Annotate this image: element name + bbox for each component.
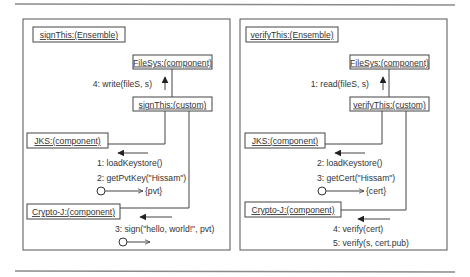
custom-label: signThis:(custom) (139, 100, 207, 110)
message-filesys: 1: read(fileS, s) (311, 79, 369, 89)
message-jks-1: 2: loadKeystore() (317, 158, 383, 168)
bottom-rule (15, 271, 455, 272)
message-filesys: 4: write(fileS, s) (93, 79, 152, 89)
return-circle-icon (318, 187, 326, 195)
message-jks-2: 2: getPvtKey("Hissam") (97, 173, 186, 183)
message-crypto-2: 5: verify(s, cert.pub) (333, 238, 409, 248)
jks-label: JKS:(component) (34, 136, 101, 146)
crypto-label: Crypto-J:(component) (251, 205, 334, 215)
return-jks: {pvt} (145, 186, 162, 196)
return-jks: {cert} (366, 186, 386, 196)
message-jks-1: 1: loadKeystore() (97, 158, 163, 168)
collaboration-diagram-figure: signThis:(Ensemble) FileSys:(component) … (0, 0, 470, 277)
sign-diagram: signThis:(Ensemble) FileSys:(component) … (23, 19, 230, 250)
top-rule (15, 4, 455, 5)
message-crypto-1: 3: sign("hello, world!", pvt) (115, 224, 214, 234)
message-crypto-1: 4: verify(cert) (333, 224, 383, 234)
filesys-label: FileSys:(component) (133, 58, 212, 68)
ensemble-label: verifyThis:(Ensemble) (250, 30, 333, 40)
message-jks-2: 3: getCert("Hissam") (317, 173, 395, 183)
return-circle-icon (119, 238, 127, 246)
jks-label: JKS:(component) (252, 136, 319, 146)
custom-label: verifyThis:(custom) (353, 100, 426, 110)
ensemble-label: signThis:(Ensemble) (40, 30, 118, 40)
crypto-label: Crypto-J:(component) (32, 207, 115, 217)
verify-diagram: verifyThis:(Ensemble) FileSys:(component… (240, 19, 447, 250)
filesys-label: FileSys:(component) (350, 58, 429, 68)
return-circle-icon (97, 187, 105, 195)
